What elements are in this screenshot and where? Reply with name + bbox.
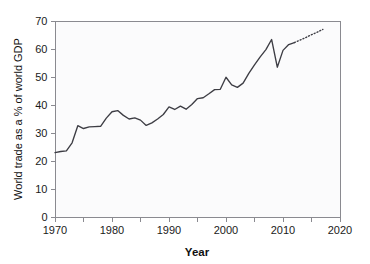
y-tick-label-40: 40 bbox=[35, 99, 47, 111]
x-tick-label-2020: 2020 bbox=[328, 224, 352, 236]
y-tick-label-50: 50 bbox=[35, 71, 47, 83]
y-axis-title: World trade as a % of world GDP bbox=[12, 38, 24, 200]
x-tick-label-1980: 1980 bbox=[100, 224, 124, 236]
y-tick-label-60: 60 bbox=[35, 43, 47, 55]
x-tick-label-1990: 1990 bbox=[157, 224, 181, 236]
y-tick-label-30: 30 bbox=[35, 127, 47, 139]
x-tick-label-2000: 2000 bbox=[214, 224, 238, 236]
y-tick-label-20: 20 bbox=[35, 155, 47, 167]
y-tick-label-0: 0 bbox=[41, 211, 47, 223]
y-axis-tick-labels: 010203040506070 bbox=[35, 15, 47, 223]
line-chart: 197019801990200020102020 010203040506070… bbox=[0, 0, 370, 264]
x-axis-tick-labels: 197019801990200020102020 bbox=[43, 224, 352, 236]
plot-area-background bbox=[55, 21, 340, 217]
x-tick-label-2010: 2010 bbox=[271, 224, 295, 236]
x-axis-title: Year bbox=[185, 246, 210, 258]
y-tick-label-10: 10 bbox=[35, 183, 47, 195]
chart-figure: 197019801990200020102020 010203040506070… bbox=[0, 0, 370, 264]
x-tick-label-1970: 1970 bbox=[43, 224, 67, 236]
y-tick-label-70: 70 bbox=[35, 15, 47, 27]
